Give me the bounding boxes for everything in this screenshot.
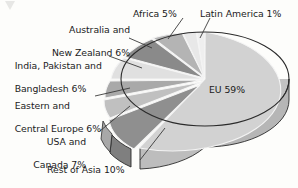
label-africa: Africa 5%: [133, 8, 177, 19]
label-rest-of-asia: Rest of Asia 10%: [47, 164, 124, 175]
pie-chart-figure: Australia and New Zealand 6% India, Paki…: [0, 0, 298, 188]
label-usa-line1: USA and: [47, 136, 86, 147]
label-eu: EU 59%: [209, 84, 245, 95]
label-eastern-europe-line1: Eastern and: [15, 100, 70, 111]
label-latin-america: Latin America 1%: [200, 8, 281, 19]
label-australia-line1: Australia and: [69, 24, 130, 35]
label-india-line1: India, Pakistan and: [15, 60, 102, 71]
